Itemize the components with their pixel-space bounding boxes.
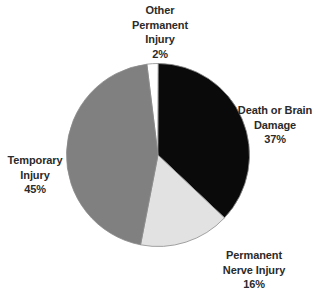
pie-chart-figure: Other Permanent Injury 2% Death or Brain…: [0, 0, 325, 294]
slice-label-line: Damage: [225, 118, 325, 133]
slice-label-line: Nerve Injury: [198, 263, 310, 278]
slice-label-other-permanent-injury: Other Permanent Injury 2%: [108, 3, 212, 61]
slice-label-death-or-brain-damage: Death or Brain Damage 37%: [225, 103, 325, 147]
slice-label-line: Death or Brain: [225, 103, 325, 118]
slice-label-line: Permanent: [198, 248, 310, 263]
slice-label-line: Injury: [0, 168, 70, 183]
slice-label-line: Injury: [108, 32, 212, 47]
pie-slice-temporary-injury: [66, 64, 158, 245]
slice-label-line: Permanent: [108, 18, 212, 33]
slice-value-death-or-brain-damage: 37%: [225, 132, 325, 147]
slice-value-other-permanent-injury: 2%: [108, 47, 212, 62]
slice-value-temporary-injury: 45%: [0, 182, 70, 197]
slice-label-line: Temporary: [0, 153, 70, 168]
slice-value-permanent-nerve-injury: 16%: [198, 277, 310, 292]
slice-label-line: Other: [108, 3, 212, 18]
slice-label-temporary-injury: Temporary Injury 45%: [0, 153, 70, 197]
slice-label-permanent-nerve-injury: Permanent Nerve Injury 16%: [198, 248, 310, 292]
